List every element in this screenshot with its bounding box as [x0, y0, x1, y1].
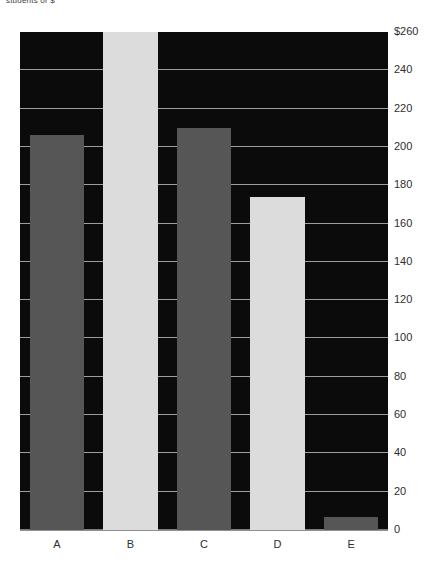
x-axis-tick-label: B [94, 538, 168, 550]
plot-area [20, 32, 388, 530]
bar-b [103, 32, 157, 530]
y-axis-tick-label: 0 [394, 524, 400, 535]
y-axis-tick-label: 80 [394, 371, 406, 382]
bar-chart: 020406080100120140160180200220240$260 AB… [0, 0, 433, 573]
y-axis-tick-label: 180 [394, 179, 412, 190]
y-axis-tick-label: 220 [394, 103, 412, 114]
bar-e [324, 517, 378, 530]
y-axis-tick-label: 20 [394, 486, 406, 497]
x-axis-tick-label: D [241, 538, 315, 550]
y-axis-tick-label: 240 [394, 64, 412, 75]
y-axis-tick-label: 40 [394, 447, 406, 458]
bar-series [20, 32, 388, 530]
y-axis-tick-label: 100 [394, 332, 412, 343]
y-axis-tick-label: 160 [394, 218, 412, 229]
bar-d [250, 197, 304, 530]
bar-c [177, 128, 231, 530]
x-axis-line [20, 530, 388, 531]
x-axis-tick-label: C [167, 538, 241, 550]
y-axis-tick-label: 60 [394, 409, 406, 420]
y-axis-tick-label: 200 [394, 141, 412, 152]
y-axis-tick-label: $260 [394, 26, 418, 37]
y-axis-tick-label: 140 [394, 256, 412, 267]
x-axis-tick-label: E [314, 538, 388, 550]
y-axis-tick-label: 120 [394, 294, 412, 305]
bar-a [30, 135, 84, 530]
x-axis-tick-label: A [20, 538, 94, 550]
